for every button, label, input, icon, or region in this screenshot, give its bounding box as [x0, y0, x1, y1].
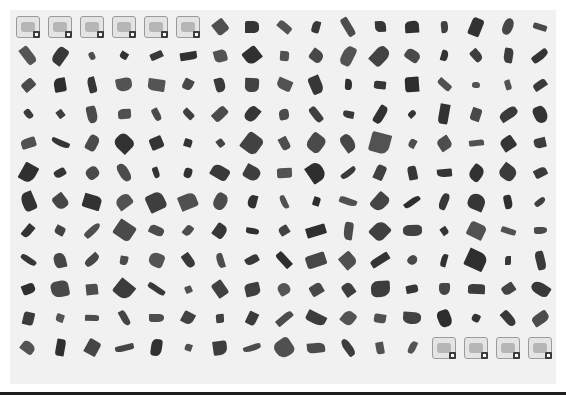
- part-tile[interactable]: [300, 12, 332, 41]
- part-tile[interactable]: [204, 100, 236, 129]
- part-tile[interactable]: [524, 70, 556, 99]
- part-tile[interactable]: [236, 70, 268, 99]
- part-tile[interactable]: [268, 129, 300, 158]
- part-tile[interactable]: [524, 187, 556, 216]
- part-tile[interactable]: [12, 187, 44, 216]
- part-tile[interactable]: [492, 275, 524, 304]
- part-tile[interactable]: [140, 333, 172, 362]
- part-tile[interactable]: [108, 100, 140, 129]
- part-tile[interactable]: [44, 158, 76, 187]
- part-tile[interactable]: [204, 216, 236, 245]
- part-tile[interactable]: [12, 216, 44, 245]
- part-tile[interactable]: [204, 12, 236, 41]
- part-tile[interactable]: [172, 275, 204, 304]
- feather-wing-category-button[interactable]: [464, 337, 488, 359]
- part-tile[interactable]: [108, 216, 140, 245]
- part-tile[interactable]: [140, 158, 172, 187]
- part-tile[interactable]: [396, 333, 428, 362]
- part-tile[interactable]: [76, 70, 108, 99]
- part-tile[interactable]: [492, 304, 524, 333]
- part-tile[interactable]: [236, 41, 268, 70]
- part-tile[interactable]: [76, 304, 108, 333]
- part-tile[interactable]: [492, 158, 524, 187]
- part-tile[interactable]: [204, 70, 236, 99]
- part-tile[interactable]: [332, 304, 364, 333]
- part-tile[interactable]: [396, 304, 428, 333]
- part-tile[interactable]: [204, 129, 236, 158]
- part-tile[interactable]: [300, 246, 332, 275]
- part-tile[interactable]: [76, 246, 108, 275]
- part-tile[interactable]: [524, 41, 556, 70]
- part-tile[interactable]: [492, 70, 524, 99]
- part-tile[interactable]: [396, 246, 428, 275]
- part-tile[interactable]: [12, 333, 44, 362]
- gear-wheel-category-button[interactable]: [16, 16, 40, 38]
- part-tile[interactable]: [460, 275, 492, 304]
- part-tile[interactable]: [300, 304, 332, 333]
- axle-connector-category-button[interactable]: [48, 16, 72, 38]
- part-tile[interactable]: [460, 187, 492, 216]
- part-tile[interactable]: [428, 304, 460, 333]
- part-tile[interactable]: [12, 129, 44, 158]
- part-tile[interactable]: [364, 216, 396, 245]
- part-tile[interactable]: [236, 158, 268, 187]
- decorated-piece-category-button[interactable]: [528, 337, 552, 359]
- part-tile[interactable]: [300, 70, 332, 99]
- part-tile[interactable]: [12, 275, 44, 304]
- part-tile[interactable]: [524, 275, 556, 304]
- part-tile[interactable]: [300, 216, 332, 245]
- part-tile[interactable]: [140, 275, 172, 304]
- part-tile[interactable]: [12, 41, 44, 70]
- part-tile[interactable]: [268, 304, 300, 333]
- part-tile[interactable]: [396, 158, 428, 187]
- part-tile[interactable]: [268, 12, 300, 41]
- part-tile[interactable]: [460, 158, 492, 187]
- part-tile[interactable]: [396, 12, 428, 41]
- part-tile[interactable]: [364, 129, 396, 158]
- part-tile[interactable]: [76, 41, 108, 70]
- part-tile[interactable]: [76, 158, 108, 187]
- part-tile[interactable]: [332, 41, 364, 70]
- part-tile[interactable]: [460, 129, 492, 158]
- part-tile[interactable]: [268, 246, 300, 275]
- part-tile[interactable]: [300, 41, 332, 70]
- plate-brick-category-button[interactable]: [112, 16, 136, 38]
- part-tile[interactable]: [44, 187, 76, 216]
- part-tile[interactable]: [108, 187, 140, 216]
- part-tile[interactable]: [332, 187, 364, 216]
- wrench-tool-category-button[interactable]: [144, 16, 168, 38]
- part-tile[interactable]: [428, 158, 460, 187]
- part-tile[interactable]: [364, 12, 396, 41]
- part-tile[interactable]: [332, 333, 364, 362]
- part-tile[interactable]: [396, 275, 428, 304]
- part-tile[interactable]: [140, 187, 172, 216]
- slope-brick-category-button[interactable]: [176, 16, 200, 38]
- part-tile[interactable]: [108, 70, 140, 99]
- part-tile[interactable]: [44, 129, 76, 158]
- part-tile[interactable]: [492, 187, 524, 216]
- part-tile[interactable]: [300, 100, 332, 129]
- part-tile[interactable]: [12, 158, 44, 187]
- part-tile[interactable]: [76, 100, 108, 129]
- part-tile[interactable]: [396, 129, 428, 158]
- part-tile[interactable]: [428, 100, 460, 129]
- part-tile[interactable]: [76, 216, 108, 245]
- part-tile[interactable]: [44, 333, 76, 362]
- part-tile[interactable]: [140, 129, 172, 158]
- part-tile[interactable]: [140, 70, 172, 99]
- part-tile[interactable]: [268, 187, 300, 216]
- part-tile[interactable]: [460, 41, 492, 70]
- part-tile[interactable]: [172, 129, 204, 158]
- part-tile[interactable]: [460, 216, 492, 245]
- torso-armor-category-button[interactable]: [432, 337, 456, 359]
- part-tile[interactable]: [492, 41, 524, 70]
- part-tile[interactable]: [332, 158, 364, 187]
- part-tile[interactable]: [268, 70, 300, 99]
- part-tile[interactable]: [332, 70, 364, 99]
- part-tile[interactable]: [364, 275, 396, 304]
- part-tile[interactable]: [236, 12, 268, 41]
- part-tile[interactable]: [44, 275, 76, 304]
- part-tile[interactable]: [332, 12, 364, 41]
- part-tile[interactable]: [332, 100, 364, 129]
- part-tile[interactable]: [396, 187, 428, 216]
